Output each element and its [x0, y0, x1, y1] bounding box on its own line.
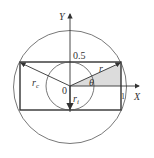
one-label: 1 — [121, 92, 125, 101]
ri-label: ri — [73, 93, 79, 106]
r-label: r — [99, 63, 103, 74]
origin-label: 0 — [62, 85, 67, 96]
half-label: 0.5 — [73, 50, 86, 61]
theta-label: θ — [89, 77, 94, 88]
geometry-diagram: Y X 0.5 0 1 rc ri r θ — [0, 0, 154, 158]
y-axis-label: Y — [59, 11, 66, 22]
rc-vector — [21, 63, 70, 86]
rc-label-sub: c — [36, 82, 40, 90]
x-axis-label: X — [133, 91, 141, 102]
ri-label-sub: i — [77, 98, 79, 106]
rc-label: rc — [32, 77, 40, 90]
